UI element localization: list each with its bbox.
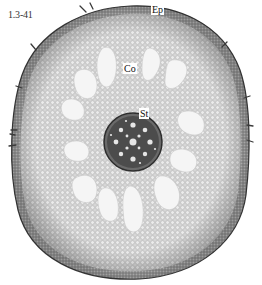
figure-number: 1.3-41 bbox=[8, 9, 33, 20]
label-cortex: Co bbox=[123, 63, 137, 74]
stele bbox=[104, 113, 162, 171]
root-cross-section-illustration bbox=[0, 0, 262, 285]
label-epidermis: Ep bbox=[151, 4, 164, 15]
root-cross-section-figure: 1.3-41 Ep Co St bbox=[0, 0, 262, 285]
label-stele: St bbox=[139, 108, 149, 119]
